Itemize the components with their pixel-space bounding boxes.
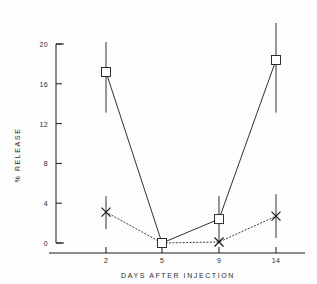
y-tick-labels: 20 16 12 8 4 0 <box>40 41 48 247</box>
axes-group <box>49 44 305 253</box>
y-tick-label-12: 12 <box>40 121 48 128</box>
x-tick-labels: 2 5 9 14 <box>104 257 280 264</box>
y-tick-group <box>56 44 62 243</box>
x-axis-title: DAYS AFTER INJECTION <box>121 272 235 279</box>
x-tick-label-5: 5 <box>160 257 164 264</box>
chart-figure: 20 16 12 8 4 0 2 5 9 14 % RELEASE DAYS A… <box>0 0 317 284</box>
marker-square-day5 <box>158 239 167 248</box>
x-tick-group <box>106 247 276 253</box>
marker-square-day9 <box>215 215 224 224</box>
y-tick-label-20: 20 <box>40 41 48 48</box>
series-x-line <box>106 212 276 243</box>
marker-square-day14 <box>272 56 281 65</box>
y-tick-label-16: 16 <box>40 81 48 88</box>
series-square-line <box>106 60 276 243</box>
y-tick-label-0: 0 <box>44 240 48 247</box>
x-tick-label-14: 14 <box>272 257 280 264</box>
series-square-group <box>102 23 281 248</box>
chart-canvas: 20 16 12 8 4 0 2 5 9 14 % RELEASE DAYS A… <box>0 0 317 284</box>
series-x-group <box>102 194 281 247</box>
x-tick-label-2: 2 <box>104 257 108 264</box>
y-tick-label-4: 4 <box>44 200 48 207</box>
x-tick-label-9: 9 <box>217 257 221 264</box>
y-tick-label-8: 8 <box>44 160 48 167</box>
marker-square-day2 <box>102 68 111 77</box>
y-axis-title: % RELEASE <box>14 128 21 183</box>
